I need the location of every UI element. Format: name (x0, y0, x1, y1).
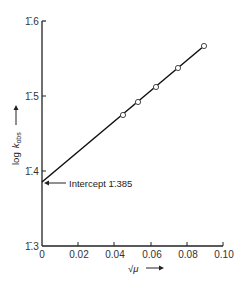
chart: 1̄.6 1̄.5 1̄.4 1̄.3 0 0.02 0.04 0.06 0.0… (0, 0, 247, 289)
intercept-label: Intercept 1̄.385 (69, 178, 132, 189)
data-point (153, 84, 158, 89)
y-tick-label-1.6: 1̄.6 (25, 16, 39, 27)
data-point (120, 112, 125, 117)
svg-text:logkobs: logkobs (10, 132, 22, 165)
intercept-arrow-icon (44, 181, 66, 186)
data-point (175, 65, 180, 70)
x-tick-label-0.04: 0.04 (105, 249, 125, 260)
x-tick-label-0.08: 0.08 (178, 249, 198, 260)
svg-text:√μ: √μ (128, 263, 139, 274)
y-axis-label: logkobs (10, 105, 22, 165)
x-tick-label-0.10: 0.10 (214, 249, 234, 260)
data-point (201, 43, 206, 48)
x-tick-label-0: 0 (39, 249, 45, 260)
x-tick-label-0.06: 0.06 (142, 249, 162, 260)
y-tick-label-1.5: 1̄.5 (25, 91, 39, 102)
data-point (135, 99, 140, 104)
y-tick-label-1.4: 1̄.4 (25, 166, 39, 177)
x-tick-label-0.02: 0.02 (69, 249, 89, 260)
x-axis-label: √μ (128, 263, 164, 274)
y-tick-label-1.3: 1̄.3 (25, 241, 39, 252)
